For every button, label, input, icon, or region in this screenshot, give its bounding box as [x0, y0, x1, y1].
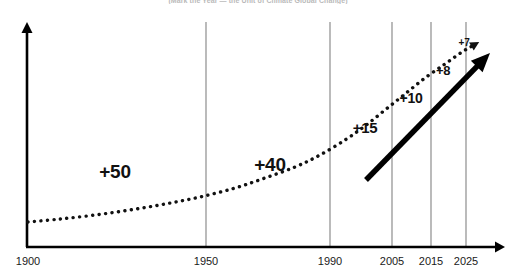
- chart-plot-area: [0, 0, 516, 279]
- delta-annotation-plus15: +15: [353, 119, 378, 136]
- chart-container: (Mark the Year — the Unit of Climate Glo…: [0, 0, 516, 279]
- delta-annotation-plus40: +40: [254, 154, 285, 176]
- delta-annotation-plus50: +50: [99, 161, 130, 183]
- dotted-curve-path: [28, 45, 474, 222]
- gridlines-group: [206, 22, 466, 247]
- x-tick-label-2015: 2015: [419, 255, 443, 267]
- delta-annotation-plus7: +7: [459, 37, 470, 48]
- x-tick-label-2025: 2025: [454, 255, 478, 267]
- x-tick-label-1950: 1950: [194, 255, 218, 267]
- axes-group: [22, 22, 506, 253]
- x-tick-label-1900: 1900: [16, 255, 40, 267]
- x-tick-label-2005: 2005: [380, 255, 404, 267]
- y-axis-arrow-icon: [22, 22, 33, 33]
- x-axis-arrow-icon: [495, 242, 505, 253]
- delta-annotation-plus10: +10: [400, 90, 423, 106]
- x-tick-label-1990: 1990: [318, 255, 342, 267]
- delta-annotation-plus8: +8: [436, 63, 450, 78]
- bold-projection-arrow: [366, 53, 490, 180]
